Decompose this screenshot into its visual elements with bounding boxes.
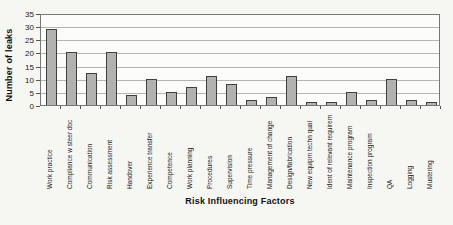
x-tick-mark bbox=[180, 106, 181, 109]
x-category-label: Competence bbox=[166, 111, 173, 189]
x-tick-mark bbox=[280, 106, 281, 109]
x-category-label: Experience transfer bbox=[146, 111, 153, 189]
bar-mustering bbox=[426, 102, 437, 105]
y-tick-mark bbox=[36, 53, 40, 54]
x-category-label: Inspection program bbox=[366, 111, 373, 189]
bar-experience-transfer bbox=[146, 79, 157, 105]
y-tick-label-20: 20 bbox=[18, 49, 34, 58]
x-category-label: Management of change bbox=[266, 111, 273, 189]
bar-chart: Number of leaks 05101520253035 Work prac… bbox=[0, 0, 453, 225]
x-tick-mark bbox=[360, 106, 361, 109]
x-category-label: Supervision bbox=[226, 111, 233, 189]
x-tick-mark bbox=[380, 106, 381, 109]
x-tick-mark bbox=[80, 106, 81, 109]
y-tick-mark bbox=[36, 40, 40, 41]
y-tick-mark bbox=[36, 67, 40, 68]
y-tick-label-5: 5 bbox=[18, 89, 34, 98]
bar-handover bbox=[126, 95, 137, 106]
y-tick-label-10: 10 bbox=[18, 76, 34, 85]
gridline-y10 bbox=[41, 80, 439, 81]
x-category-label: New equipm techn qual bbox=[306, 111, 313, 189]
plot-area bbox=[40, 14, 440, 106]
y-tick-mark bbox=[36, 93, 40, 94]
y-tick-label-15: 15 bbox=[18, 63, 34, 72]
gridline-y25 bbox=[41, 40, 439, 41]
bar-maintenance-program bbox=[346, 92, 357, 105]
bar-qa bbox=[386, 79, 397, 105]
bar-risk-assessment bbox=[106, 52, 117, 105]
gridline-y15 bbox=[41, 67, 439, 68]
y-tick-label-0: 0 bbox=[18, 102, 34, 111]
x-category-label: QA bbox=[386, 111, 393, 189]
bar-inspection-program bbox=[366, 100, 377, 105]
bar-design-fabrication bbox=[286, 76, 297, 105]
x-tick-mark bbox=[240, 106, 241, 109]
x-category-label: Handover bbox=[126, 111, 133, 189]
bar-ident-of-relevant-requirem bbox=[326, 102, 337, 105]
x-tick-mark bbox=[400, 106, 401, 109]
x-tick-mark bbox=[340, 106, 341, 109]
x-tick-mark bbox=[60, 106, 61, 109]
bar-supervision bbox=[226, 84, 237, 105]
x-tick-mark bbox=[420, 106, 421, 109]
x-tick-mark bbox=[100, 106, 101, 109]
y-tick-mark bbox=[36, 14, 40, 15]
bar-competence bbox=[166, 92, 177, 105]
x-tick-mark bbox=[140, 106, 141, 109]
x-tick-mark bbox=[220, 106, 221, 109]
x-category-label: Work planning bbox=[186, 111, 193, 189]
x-category-label: Logging bbox=[406, 111, 413, 189]
x-category-label: Maintenance program bbox=[346, 111, 353, 189]
x-tick-mark bbox=[320, 106, 321, 109]
bar-work-practice bbox=[46, 29, 57, 105]
x-axis-title: Risk Influencing Factors bbox=[40, 196, 440, 206]
bar-compliance-w-steer-doc bbox=[66, 52, 77, 105]
gridline-y20 bbox=[41, 53, 439, 54]
x-category-label: Risk assessment bbox=[106, 111, 113, 189]
bar-time-pressure bbox=[246, 100, 257, 105]
y-tick-mark bbox=[36, 106, 40, 107]
x-tick-mark bbox=[440, 106, 441, 109]
x-tick-mark bbox=[260, 106, 261, 109]
x-category-label: Ident of relevant requirem bbox=[326, 111, 333, 189]
bar-logging bbox=[406, 100, 417, 105]
gridline-y30 bbox=[41, 27, 439, 28]
bar-communication bbox=[86, 73, 97, 105]
bar-new-equipm-techn-qual bbox=[306, 102, 317, 105]
bar-procedures bbox=[206, 76, 217, 105]
y-axis-title: Number of leaks bbox=[4, 20, 14, 110]
y-tick-label-35: 35 bbox=[18, 10, 34, 19]
x-category-label: Time pressure bbox=[246, 111, 253, 189]
y-tick-label-25: 25 bbox=[18, 36, 34, 45]
x-tick-mark bbox=[160, 106, 161, 109]
bar-management-of-change bbox=[266, 97, 277, 105]
y-tick-mark bbox=[36, 80, 40, 81]
x-category-label: Compliance w steer doc bbox=[66, 111, 73, 189]
x-category-label: Mustering bbox=[426, 111, 433, 189]
y-tick-label-30: 30 bbox=[18, 23, 34, 32]
x-category-label: Design/fabrication bbox=[286, 111, 293, 189]
x-category-label: Work practice bbox=[46, 111, 53, 189]
x-tick-mark bbox=[200, 106, 201, 109]
y-tick-mark bbox=[36, 27, 40, 28]
x-category-label: Procedures bbox=[206, 111, 213, 189]
x-tick-mark bbox=[300, 106, 301, 109]
x-category-label: Communication bbox=[86, 111, 93, 189]
bar-work-planning bbox=[186, 87, 197, 105]
x-tick-mark bbox=[120, 106, 121, 109]
gridline-y5 bbox=[41, 93, 439, 94]
